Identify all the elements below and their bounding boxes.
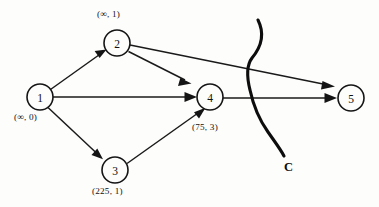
arrowhead-edge-1-to-4 (185, 92, 198, 102)
node-3-annotation: (225, 1) (92, 186, 123, 196)
cut-curve-c (248, 20, 284, 156)
node-2[interactable]: 2 (104, 30, 130, 56)
edge-1-to-3 (48, 108, 103, 160)
node-2-label: 2 (114, 38, 120, 50)
graph-canvas: 1 2 3 4 5 (0, 0, 379, 207)
network-flow-figure: 1 2 3 4 5 (∞, 1) (∞, 0) (225, 1) (75, 3)… (0, 0, 379, 207)
node-3-label: 3 (112, 165, 118, 177)
edge-3-to-4 (127, 108, 206, 164)
cut-curve-label: C (284, 160, 293, 175)
edge-4-to-5 (223, 93, 337, 103)
node-5-label: 5 (348, 93, 354, 105)
node-2-annotation: (∞, 1) (97, 9, 120, 19)
node-1-annotation: (∞, 0) (14, 112, 37, 122)
node-4-label: 4 (207, 92, 213, 104)
edge-1-to-2 (51, 50, 107, 90)
node-5[interactable]: 5 (338, 85, 364, 111)
edge-1-to-4 (53, 92, 197, 102)
node-1-label: 1 (37, 92, 43, 104)
arrowhead-edge-4-to-5 (325, 93, 338, 103)
node-4-annotation: (75, 3) (192, 122, 218, 132)
edge-2-to-4 (129, 52, 192, 87)
node-4[interactable]: 4 (197, 84, 223, 110)
node-3[interactable]: 3 (102, 157, 128, 183)
node-1[interactable]: 1 (27, 84, 53, 110)
arrowhead-edge-2-to-5 (321, 81, 335, 90)
arrowhead-edge-3-to-4 (194, 108, 206, 119)
